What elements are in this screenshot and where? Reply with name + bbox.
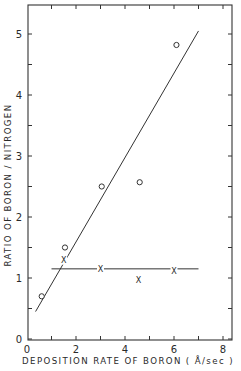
y-tick-label: 0 — [16, 334, 22, 345]
cross-marker: X — [61, 256, 67, 265]
x-tick-label: 8 — [220, 344, 226, 355]
y-tick-label: 4 — [16, 90, 22, 101]
scatter-chart: 02468012345 XXXX DEPOSITION RATE OF BORO… — [0, 0, 241, 371]
y-tick-label: 1 — [16, 273, 22, 284]
tick-labels: 02468012345 — [16, 29, 227, 355]
axis-ticks — [28, 5, 232, 340]
circle-marker — [62, 245, 67, 250]
x-axis-title: DEPOSITION RATE OF BORON ( Å/sec ) — [22, 355, 234, 366]
circle-marker — [174, 42, 179, 47]
x-tick-label: 0 — [24, 344, 30, 355]
x-tick-label: 6 — [171, 344, 177, 355]
cross-marker: X — [98, 265, 104, 274]
cross-marker: X — [171, 267, 177, 276]
x-tick-label: 2 — [73, 344, 79, 355]
plot-frame — [28, 5, 232, 340]
y-tick-label: 2 — [16, 212, 22, 223]
cross-marker: X — [136, 276, 142, 285]
y-axis-title: RATIO OF BORON / NITROGEN — [3, 103, 13, 266]
data-markers: XXXX — [39, 42, 179, 299]
circle-marker — [137, 180, 142, 185]
y-tick-label: 3 — [16, 151, 22, 162]
x-tick-label: 4 — [122, 344, 128, 355]
circle-marker — [99, 184, 104, 189]
circle-marker — [39, 294, 44, 299]
plot-border — [28, 5, 232, 340]
y-tick-label: 5 — [16, 29, 22, 40]
